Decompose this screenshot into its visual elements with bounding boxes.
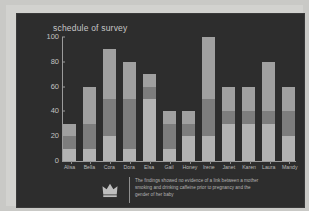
bar-segment-lower <box>123 149 136 161</box>
plot-area <box>63 37 295 161</box>
bar-segment-lower <box>63 149 76 161</box>
bar-segment-middle <box>262 111 275 123</box>
x-axis-labels: AlisaBellaCoraDoraElsaGailHoneyIreneJane… <box>63 164 295 178</box>
bar-segment-lower <box>83 149 96 161</box>
chart-panel: schedule of survey 020406080100 AlisaBel… <box>16 13 305 208</box>
footnote-divider <box>129 177 130 203</box>
bar-segment-lower <box>163 149 176 161</box>
bar-segment-middle <box>143 87 156 99</box>
bar-segment-upper <box>63 124 76 136</box>
bar-group <box>63 37 295 161</box>
chart-frame: schedule of survey 020406080100 AlisaBel… <box>6 5 303 206</box>
bar-segment-upper <box>83 87 96 124</box>
bar-segment-upper <box>282 87 295 112</box>
bar-segment-upper <box>202 37 215 99</box>
bar-segment-lower <box>103 136 116 161</box>
bar-segment-upper <box>143 74 156 86</box>
bar-dora[interactable] <box>123 37 136 161</box>
x-label-mandy: Mandy <box>282 165 295 179</box>
bar-segment-middle <box>182 124 195 136</box>
y-tick-label: 40 <box>43 108 59 116</box>
bar-segment-middle <box>202 99 215 136</box>
bar-segment-upper <box>123 62 136 99</box>
bar-segment-middle <box>163 124 176 149</box>
bar-segment-middle <box>63 136 76 148</box>
bar-segment-lower <box>242 124 255 161</box>
bar-segment-middle <box>83 124 96 149</box>
bar-segment-upper <box>182 111 195 123</box>
bar-segment-middle <box>242 111 255 123</box>
footnote-text: The findings showed no evidence of a lin… <box>135 177 259 198</box>
bar-segment-middle <box>103 99 116 136</box>
bar-segment-upper <box>262 62 275 112</box>
bar-segment-lower <box>282 136 295 161</box>
bar-segment-lower <box>222 124 235 161</box>
bar-janet[interactable] <box>222 37 235 161</box>
bar-segment-middle <box>282 111 295 136</box>
y-tick-label: 0 <box>43 157 59 165</box>
bar-segment-lower <box>182 136 195 161</box>
bar-segment-upper <box>103 49 116 99</box>
bar-bella[interactable] <box>83 37 96 161</box>
x-axis-line <box>62 161 296 162</box>
chart-title: schedule of survey <box>53 23 127 33</box>
bar-alisa[interactable] <box>63 37 76 161</box>
bar-cora[interactable] <box>103 37 116 161</box>
bar-segment-upper <box>222 87 235 112</box>
x-label-alisa: Alisa <box>63 165 76 179</box>
bar-elsa[interactable] <box>143 37 156 161</box>
crown-icon <box>101 181 119 199</box>
y-tick-label: 20 <box>43 132 59 140</box>
bar-karen[interactable] <box>242 37 255 161</box>
y-tick-label: 80 <box>43 58 59 66</box>
bar-segment-middle <box>222 111 235 123</box>
bar-segment-lower <box>262 124 275 161</box>
footnote: The findings showed no evidence of a lin… <box>85 177 265 205</box>
bar-segment-middle <box>123 99 136 149</box>
y-tick-label: 60 <box>43 83 59 91</box>
bar-laura[interactable] <box>262 37 275 161</box>
y-tick-label: 100 <box>43 33 59 41</box>
bar-irene[interactable] <box>202 37 215 161</box>
bar-segment-lower <box>143 99 156 161</box>
bar-segment-lower <box>202 136 215 161</box>
bar-honey[interactable] <box>182 37 195 161</box>
bar-gail[interactable] <box>163 37 176 161</box>
bar-mandy[interactable] <box>282 37 295 161</box>
bar-segment-upper <box>242 87 255 112</box>
screenshot-root: schedule of survey 020406080100 AlisaBel… <box>0 0 309 211</box>
bar-segment-upper <box>163 111 176 123</box>
